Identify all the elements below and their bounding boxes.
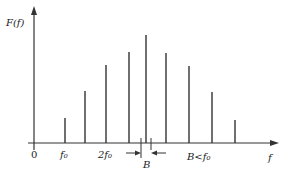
spectrum-diagram: F(f) f 0 f₀ 2f₀ B B<f₀ [0,0,285,180]
y-axis-arrow-icon [31,6,37,15]
spectral-lines [65,35,235,143]
x-axis-label: f [267,152,274,163]
origin-label: 0 [31,149,37,160]
y-axis-label: F(f) [5,17,25,28]
f0-label: f₀ [59,149,68,160]
bandwidth-label: B [142,159,150,170]
two-f0-label: 2f₀ [97,149,112,160]
bandwidth-arrow-right-icon [135,151,141,156]
condition-label: B<f₀ [186,151,210,162]
bandwidth-arrow-left-icon [151,151,157,156]
x-axis-arrow-icon [270,140,279,146]
